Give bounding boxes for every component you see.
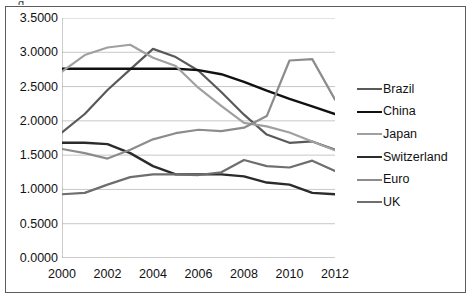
legend-swatch-icon [357,201,382,203]
legend-item-uk[interactable]: UK [357,191,461,214]
legend-item-label: Switzerland [383,151,448,164]
x-tick-label: 2000 [48,268,76,281]
x-tick-label: 2010 [276,268,304,281]
chart-figure: g 0.00000.50001.00001.50002.00002.50003.… [0,0,472,299]
legend-swatch-icon [357,111,382,113]
legend-item-euro[interactable]: Euro [357,168,461,191]
x-tick-label: 2012 [321,268,349,281]
legend-swatch-icon [357,88,382,90]
legend-item-label: UK [383,196,400,209]
legend-item-label: Japan [383,128,417,141]
legend-swatch-icon [357,179,382,181]
chart-legend: BrazilChinaJapanSwitzerlandEuroUK [357,78,461,214]
plot-area [62,18,335,258]
legend-item-label: China [383,105,416,118]
x-tick-label: 2008 [230,268,258,281]
legend-swatch-icon [357,156,382,158]
legend-item-japan[interactable]: Japan [357,123,461,146]
series-lines [62,18,335,258]
legend-item-brazil[interactable]: Brazil [357,78,461,101]
x-tick-label: 2006 [185,268,213,281]
legend-item-label: Euro [383,173,409,186]
x-tick-label: 2004 [139,268,167,281]
legend-item-label: Brazil [383,83,414,96]
legend-item-china[interactable]: China [357,101,461,124]
legend-item-switzerland[interactable]: Switzerland [357,146,461,169]
x-tick-label: 2002 [94,268,122,281]
legend-swatch-icon [357,133,382,135]
series-line-china [62,69,335,114]
